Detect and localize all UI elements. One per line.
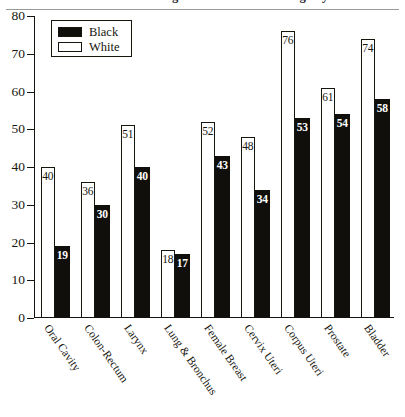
x-label-cervix-uteri: Cervix Uteri bbox=[242, 322, 285, 376]
title-divider bbox=[6, 9, 399, 10]
filled-swatch bbox=[58, 27, 82, 37]
y-tick-label-10: 10 bbox=[12, 272, 26, 288]
bar-value-label: 19 bbox=[56, 249, 69, 261]
bar-black: 17 bbox=[175, 254, 190, 318]
x-label-corpus-uteri: Corpus Uteri bbox=[282, 322, 326, 378]
bar-value-label: 61 bbox=[322, 91, 335, 103]
bar-value-label: 34 bbox=[256, 193, 269, 205]
y-tick-70 bbox=[27, 54, 34, 55]
bar-black: 58 bbox=[375, 99, 390, 318]
bar-black: 54 bbox=[335, 114, 350, 318]
bar-group: 4834 bbox=[241, 16, 270, 318]
y-tick-label-70: 70 bbox=[12, 46, 26, 62]
bar-value-label: 40 bbox=[136, 170, 149, 182]
y-tick-label-20: 20 bbox=[12, 235, 26, 251]
bar-value-label: 18 bbox=[162, 253, 175, 265]
bar-white: 61 bbox=[321, 88, 336, 318]
y-tick-label-40: 40 bbox=[12, 159, 26, 175]
y-tick-50 bbox=[27, 129, 34, 130]
chart-title: Percent of Cancers Diagnosed at Localize… bbox=[0, 0, 405, 4]
legend-item-black: Black bbox=[58, 25, 126, 39]
bar-black: 53 bbox=[295, 118, 310, 318]
y-tick-label-50: 50 bbox=[12, 121, 26, 137]
bar-group: 6154 bbox=[321, 16, 350, 318]
legend-item-white: White bbox=[58, 40, 126, 54]
y-tick-60 bbox=[27, 92, 34, 93]
y-tick-40 bbox=[27, 167, 34, 168]
bar-group: 1817 bbox=[161, 16, 190, 318]
bar-white: 74 bbox=[361, 39, 376, 318]
y-tick-30 bbox=[27, 205, 34, 206]
bar-group: 7653 bbox=[281, 16, 310, 318]
bar-value-label: 40 bbox=[42, 170, 55, 182]
y-tick-label-30: 30 bbox=[12, 197, 26, 213]
bar-white: 52 bbox=[201, 122, 216, 318]
bar-white: 36 bbox=[81, 182, 96, 318]
x-label-oral-cavity: Oral Cavity bbox=[42, 322, 83, 373]
hollow-swatch bbox=[58, 42, 82, 52]
x-label-larynx: Larynx bbox=[122, 322, 151, 356]
bar-group: 5243 bbox=[201, 16, 230, 318]
x-label-bladder: Bladder bbox=[362, 322, 393, 359]
legend-label-white: White bbox=[89, 41, 120, 54]
bar-value-label: 43 bbox=[216, 159, 229, 171]
y-tick-20 bbox=[27, 243, 34, 244]
y-tick-10 bbox=[27, 280, 34, 281]
y-tick-label-80: 80 bbox=[12, 8, 26, 24]
bar-group: 4019 bbox=[41, 16, 70, 318]
bar-black: 30 bbox=[95, 205, 110, 318]
bar-value-label: 53 bbox=[296, 121, 309, 133]
bar-value-label: 51 bbox=[122, 128, 135, 140]
y-tick-0 bbox=[27, 318, 34, 319]
bar-black: 43 bbox=[215, 156, 230, 318]
bar-group: 5140 bbox=[121, 16, 150, 318]
bar-value-label: 54 bbox=[336, 117, 349, 129]
bar-value-label: 52 bbox=[202, 125, 215, 137]
x-label-prostate: Prostate bbox=[322, 322, 353, 359]
bar-white: 40 bbox=[41, 167, 56, 318]
bar-black: 34 bbox=[255, 190, 270, 318]
bar-value-label: 17 bbox=[176, 257, 189, 269]
bar-black: 40 bbox=[135, 167, 150, 318]
bar-value-label: 74 bbox=[362, 42, 375, 54]
bar-value-label: 48 bbox=[242, 140, 255, 152]
bar-group: 3630 bbox=[81, 16, 110, 318]
bar-value-label: 58 bbox=[376, 102, 389, 114]
bar-value-label: 36 bbox=[82, 185, 95, 197]
bar-value-label: 30 bbox=[96, 208, 109, 220]
legend-label-black: Black bbox=[89, 26, 118, 39]
bar-chart: Percent of Cancers Diagnosed at Localize… bbox=[0, 0, 405, 417]
bar-black: 19 bbox=[55, 246, 70, 318]
plot-area: 01020304050607080 4019363051401817524348… bbox=[34, 16, 394, 318]
x-label-female-breast: Female Breast bbox=[202, 322, 250, 383]
bar-value-label: 76 bbox=[282, 34, 295, 46]
bar-white: 48 bbox=[241, 137, 256, 318]
y-tick-label-60: 60 bbox=[12, 84, 26, 100]
bar-white: 51 bbox=[121, 125, 136, 318]
y-tick-label-0: 0 bbox=[18, 310, 25, 326]
bar-white: 18 bbox=[161, 250, 176, 318]
y-axis-line bbox=[34, 16, 35, 318]
legend: Black White bbox=[51, 20, 132, 57]
y-tick-80 bbox=[27, 16, 34, 17]
bar-white: 76 bbox=[281, 31, 296, 318]
bar-group: 7458 bbox=[361, 16, 390, 318]
